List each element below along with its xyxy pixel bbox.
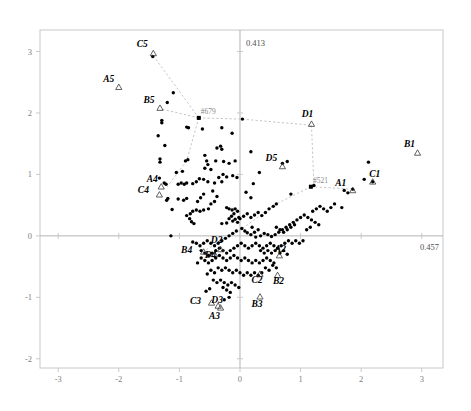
vertical-inertia-label: 0.413 (246, 38, 265, 48)
data-point (286, 160, 289, 163)
data-point (235, 269, 238, 272)
data-point (164, 183, 167, 186)
data-point (202, 192, 205, 195)
data-point (250, 244, 253, 247)
data-point (340, 206, 343, 209)
data-point (220, 126, 223, 129)
data-point (200, 256, 203, 259)
data-point (192, 222, 195, 225)
data-point (187, 126, 190, 129)
data-point (286, 253, 289, 256)
data-point (207, 207, 210, 210)
category-marker-c4[interactable] (156, 192, 162, 197)
category-label-b5: B5 (142, 95, 154, 105)
data-point (265, 244, 268, 247)
x-tick-label: -1 (176, 374, 183, 384)
data-point (263, 232, 266, 235)
data-point (260, 214, 263, 217)
data-point (232, 246, 235, 249)
data-point (246, 271, 249, 274)
data-point (196, 261, 199, 264)
data-point (188, 217, 191, 220)
data-point (238, 217, 241, 220)
data-point (222, 160, 225, 163)
data-point (230, 215, 233, 218)
data-point (246, 212, 249, 215)
data-point (217, 176, 220, 179)
data-point (198, 244, 201, 247)
data-point (183, 183, 186, 186)
category-marker-b5[interactable] (157, 105, 163, 110)
data-point (267, 207, 270, 210)
data-point (249, 150, 252, 153)
data-point (191, 210, 194, 213)
category-label-c3: C3 (190, 296, 201, 306)
horizontal-inertia-label: 0.457 (420, 242, 439, 252)
data-point (270, 251, 273, 254)
data-point (172, 91, 175, 94)
data-point (239, 242, 242, 245)
data-point (165, 199, 168, 202)
data-point (209, 202, 212, 205)
data-point (318, 205, 321, 208)
data-point (241, 117, 244, 120)
data-point (198, 177, 201, 180)
data-point (198, 210, 201, 213)
data-point (298, 242, 301, 245)
data-point (294, 239, 297, 242)
data-point (293, 223, 296, 226)
data-point (235, 229, 238, 232)
data-point (224, 266, 227, 269)
data-point (322, 207, 325, 210)
data-point (151, 55, 154, 58)
data-point (191, 182, 194, 185)
data-point (253, 213, 256, 216)
data-point (176, 183, 179, 186)
category-label-a2: A2 (274, 244, 286, 254)
data-point (208, 287, 211, 290)
data-point (166, 101, 169, 104)
data-point (218, 254, 221, 257)
data-point (176, 197, 179, 200)
data-point (221, 256, 224, 259)
polygon-link (242, 119, 311, 125)
data-point (215, 146, 218, 149)
data-point (231, 271, 234, 274)
data-point (230, 208, 233, 211)
data-point (219, 144, 222, 147)
category-marker-a5[interactable] (116, 84, 122, 89)
data-point (313, 221, 316, 224)
polygon-link (153, 56, 198, 118)
x-tick-label: 0 (238, 374, 242, 384)
category-marker-b1[interactable] (414, 150, 420, 155)
category-label-b2: B2 (272, 276, 284, 286)
data-point (249, 216, 252, 219)
annotated-point-marker[interactable] (197, 116, 201, 120)
data-point (266, 249, 269, 252)
annotated-point-marker[interactable] (309, 185, 313, 189)
data-point (246, 231, 249, 234)
data-point (220, 222, 223, 225)
data-point (264, 211, 267, 214)
data-point (244, 191, 247, 194)
data-point (186, 158, 189, 161)
data-point (242, 215, 245, 218)
data-point (287, 239, 290, 242)
data-point (306, 216, 309, 219)
data-point (329, 206, 332, 209)
data-point (273, 233, 276, 236)
data-point (236, 244, 239, 247)
data-point (202, 208, 205, 211)
data-point (256, 211, 259, 214)
data-point (333, 202, 336, 205)
data-point (275, 226, 278, 229)
data-point (201, 127, 204, 130)
data-point (215, 195, 218, 198)
data-point (252, 182, 255, 185)
data-point (305, 228, 308, 231)
data-point (231, 174, 234, 177)
data-point (290, 242, 293, 245)
data-point (214, 159, 217, 162)
x-tick-label: -2 (115, 374, 122, 384)
data-point (221, 286, 224, 289)
